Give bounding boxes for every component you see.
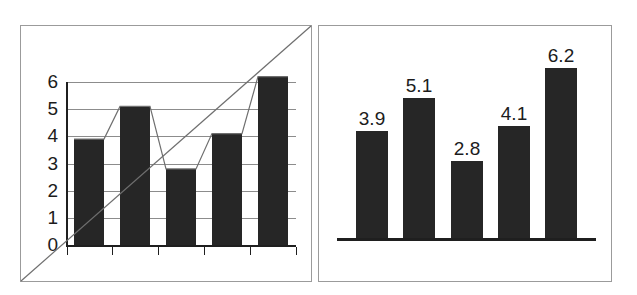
- bar: [403, 98, 435, 238]
- y-axis-tick-label: 0: [38, 235, 58, 254]
- right-chart-baseline: [337, 238, 596, 241]
- bar-value-label: 6.2: [539, 46, 583, 65]
- bar-value-label: 3.9: [350, 109, 394, 128]
- bar: [545, 68, 577, 238]
- y-axis-tick-label: 3: [38, 154, 58, 173]
- x-axis-tick: [112, 247, 113, 255]
- y-axis-tick-label: 4: [38, 126, 58, 145]
- bar-value-label: 4.1: [492, 104, 536, 123]
- x-axis-tick: [250, 247, 251, 255]
- bar: [120, 106, 150, 245]
- bar: [74, 139, 104, 245]
- x-axis-tick: [158, 247, 159, 255]
- x-axis-tick: [204, 247, 205, 255]
- bar: [258, 77, 288, 245]
- bar: [212, 134, 242, 245]
- bar: [166, 169, 196, 245]
- bar: [356, 131, 388, 238]
- bar-value-label: 5.1: [397, 76, 441, 95]
- x-axis-tick: [296, 247, 297, 255]
- figure-canvas: 6543210 3.95.12.84.16.2: [0, 0, 637, 295]
- left-chart-y-axis-line: [66, 82, 68, 247]
- y-axis-tick-label: 5: [38, 99, 58, 118]
- bar: [451, 161, 483, 238]
- y-axis-tick-label: 1: [38, 208, 58, 227]
- bar-value-label: 2.8: [445, 139, 489, 158]
- y-axis-tick-label: 2: [38, 181, 58, 200]
- left-chart-x-axis-line: [66, 245, 296, 247]
- y-axis-tick-label: 6: [38, 72, 58, 91]
- x-axis-tick: [67, 247, 68, 255]
- bar: [498, 126, 530, 238]
